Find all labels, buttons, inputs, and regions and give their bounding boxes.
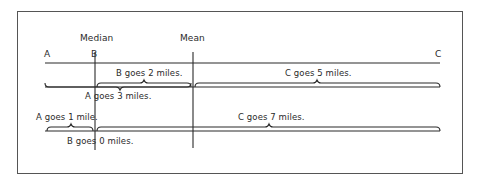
c-goes-5-miles-text: C goes 5 miles. [285, 68, 352, 78]
a-goes-1-mile-text: A goes 1 mile. [36, 112, 98, 122]
b-goes-2-miles-text: B goes 2 miles. [116, 68, 182, 78]
mean-label: Mean [180, 33, 205, 43]
point-b-label: B [91, 49, 97, 59]
brace-c-7-miles [97, 124, 440, 131]
a-goes-3-miles-text: A goes 3 miles. [85, 91, 151, 101]
point-c-label: C [435, 49, 441, 59]
c-goes-7-miles-text: C goes 7 miles. [238, 112, 305, 122]
brace-b-2-miles [97, 80, 191, 87]
brace-a-1-mile [47, 124, 93, 131]
diagram-lines [0, 0, 482, 188]
brace-c-5-miles [195, 80, 440, 87]
b-goes-0-miles-text: B goes 0 miles. [67, 136, 133, 146]
point-a-label: A [44, 49, 50, 59]
median-label: Median [80, 33, 113, 43]
